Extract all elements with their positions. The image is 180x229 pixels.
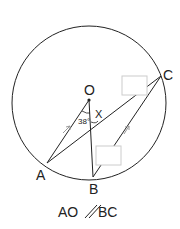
segment-OB — [89, 100, 93, 177]
label-O: O — [84, 82, 95, 98]
label-B: B — [89, 181, 98, 197]
label-C: C — [163, 67, 173, 83]
angle-arc-38 — [82, 111, 90, 113]
center-point — [87, 98, 90, 101]
segment-AO — [47, 100, 89, 163]
unknown-angle-label: X — [95, 108, 103, 120]
label-A: A — [36, 167, 46, 183]
answer-box-2[interactable] — [96, 146, 121, 165]
angle-label-38: 38° — [78, 117, 90, 126]
caption-left: AO — [58, 204, 78, 220]
answer-box-1[interactable] — [122, 76, 147, 95]
caption-right: BC — [98, 204, 117, 220]
angle-arc-x — [91, 121, 98, 123]
geometry-diagram: O A B C 38° X AO BC — [0, 0, 180, 229]
